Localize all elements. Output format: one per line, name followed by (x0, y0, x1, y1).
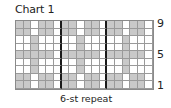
chart-cell-blank (138, 36, 146, 44)
chart-cell-shaded (130, 51, 138, 59)
chart-cell-blank (46, 44, 54, 52)
chart-cell-shaded (46, 29, 54, 37)
chart-cell-shaded (115, 21, 123, 29)
chart-cell-shaded (39, 51, 47, 59)
chart-cell-shaded (31, 59, 39, 67)
chart-cell-shaded (107, 21, 115, 29)
chart-cell-shaded (24, 29, 32, 37)
chart-cell-blank (16, 59, 24, 67)
chart-cell-blank (123, 81, 131, 89)
chart-cell-shaded (85, 29, 93, 37)
repeat-label: 6-st repeat (60, 93, 110, 104)
chart-cell-shaded (16, 51, 24, 59)
chart-cell-blank (46, 59, 54, 67)
chart-cell-blank (130, 59, 138, 67)
chart-cell-blank (24, 59, 32, 67)
chart-cell-blank (100, 36, 108, 44)
chart-cell-blank (107, 66, 115, 74)
chart-cell-blank (16, 36, 24, 44)
chart-cell-blank (54, 81, 62, 89)
chart-cell-blank (77, 29, 85, 37)
chart-cell-blank (54, 51, 62, 59)
chart-cell-blank (39, 59, 47, 67)
chart-cell-shaded (107, 29, 115, 37)
chart-cell-shaded (39, 29, 47, 37)
chart-cell-blank (100, 21, 108, 29)
chart-cell-blank (100, 74, 108, 82)
chart-cell-blank (85, 44, 93, 52)
chart-cell-blank (24, 66, 32, 74)
chart-cell-blank (145, 81, 153, 89)
chart-cell-blank (31, 81, 39, 89)
chart-cell-blank (115, 66, 123, 74)
chart-cell-shaded (92, 21, 100, 29)
chart-cell-blank (92, 59, 100, 67)
chart-cell-blank (100, 51, 108, 59)
chart-cell-shaded (46, 81, 54, 89)
chart-cell-shaded (31, 66, 39, 74)
chart-cell-shaded (92, 81, 100, 89)
chart-cell-shaded (77, 59, 85, 67)
chart-cell-blank (54, 21, 62, 29)
chart-cell-blank (92, 44, 100, 52)
chart-cell-blank (100, 81, 108, 89)
chart-cell-shaded (115, 74, 123, 82)
chart-cell-blank (31, 74, 39, 82)
chart-cell-shaded (62, 74, 70, 82)
chart-cell-blank (24, 44, 32, 52)
row-label-5: 5 (157, 49, 164, 60)
chart-cell-shaded (138, 21, 146, 29)
chart-cell-blank (39, 66, 47, 74)
chart-cell-blank (145, 44, 153, 52)
chart-cell-shaded (16, 29, 24, 37)
chart-cell-blank (100, 66, 108, 74)
chart-cell-shaded (85, 81, 93, 89)
chart-cell-blank (107, 36, 115, 44)
chart-cell-shaded (130, 21, 138, 29)
chart-cell-shaded (123, 36, 131, 44)
chart-cell-blank (100, 59, 108, 67)
chart-cell-shaded (92, 74, 100, 82)
chart-cell-blank (123, 21, 131, 29)
chart-cell-blank (24, 36, 32, 44)
chart-cell-shaded (123, 51, 131, 59)
chart-cell-shaded (31, 36, 39, 44)
chart-cell-shaded (16, 21, 24, 29)
row-label-9: 9 (157, 18, 164, 29)
chart-cell-shaded (85, 74, 93, 82)
chart-cell-shaded (130, 81, 138, 89)
chart-cell-blank (54, 36, 62, 44)
chart-cell-blank (145, 36, 153, 44)
chart-cell-shaded (77, 51, 85, 59)
chart-cell-blank (54, 59, 62, 67)
chart-cell-shaded (138, 81, 146, 89)
chart-cell-blank (31, 29, 39, 37)
chart-cell-blank (77, 21, 85, 29)
chart-cell-blank (85, 66, 93, 74)
chart-cell-shaded (92, 51, 100, 59)
chart-cell-blank (69, 66, 77, 74)
chart-cell-shaded (62, 21, 70, 29)
chart-cell-blank (39, 44, 47, 52)
chart-cell-blank (115, 59, 123, 67)
chart-cell-shaded (138, 29, 146, 37)
chart-cell-blank (145, 21, 153, 29)
chart-cell-shaded (85, 51, 93, 59)
chart-cell-shaded (115, 51, 123, 59)
chart-cell-blank (16, 44, 24, 52)
chart-cell-shaded (39, 81, 47, 89)
chart-cell-blank (138, 66, 146, 74)
chart-cell-shaded (46, 74, 54, 82)
chart-cell-shaded (77, 66, 85, 74)
chart-cell-shaded (16, 81, 24, 89)
chart-cell-shaded (31, 44, 39, 52)
chart-cell-shaded (77, 44, 85, 52)
chart-cell-shaded (85, 21, 93, 29)
chart-cell-shaded (24, 21, 32, 29)
row-label-1: 1 (157, 80, 164, 91)
chart-cell-blank (62, 59, 70, 67)
chart-cell-blank (77, 74, 85, 82)
chart-cell-shaded (130, 74, 138, 82)
chart-cell-shaded (138, 74, 146, 82)
chart-cell-shaded (69, 51, 77, 59)
